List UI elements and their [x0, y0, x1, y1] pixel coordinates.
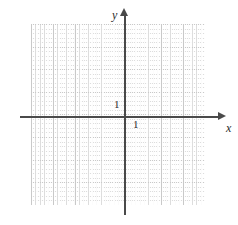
x-axis-arrow-icon — [218, 112, 226, 120]
y-axis-arrow-icon — [120, 8, 128, 16]
x-axis-line — [20, 116, 222, 118]
y-axis-line — [124, 13, 126, 215]
y-axis-unit-tick-label: 1 — [114, 99, 120, 110]
graph-paper-grid — [31, 24, 205, 205]
coordinate-plane-figure: x y 1 1 — [0, 0, 238, 225]
x-axis-unit-tick-label: 1 — [133, 119, 139, 130]
x-axis-label: x — [226, 122, 231, 134]
y-axis-label: y — [112, 9, 117, 21]
